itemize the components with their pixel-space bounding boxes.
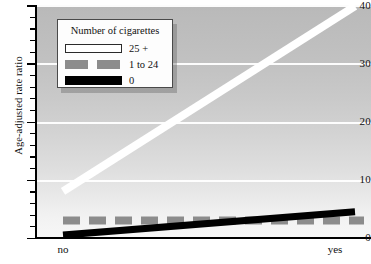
legend-swatch-1to24 (65, 60, 122, 69)
y-tick-40 (27, 5, 36, 7)
y-tick-label-30: 30 (351, 58, 371, 69)
y-minor-tick (30, 191, 36, 192)
legend-swatch-0 (65, 76, 122, 85)
y-minor-tick (30, 203, 36, 204)
plot-area: Number of cigarettes 25 + 1 to 24 0 (36, 5, 371, 238)
legend-label-25plus: 25 + (129, 43, 148, 54)
legend-label-1to24: 1 to 24 (129, 59, 158, 70)
y-minor-tick (30, 156, 36, 157)
y-tick-label-0: 0 (351, 232, 371, 243)
y-minor-tick (30, 168, 36, 169)
y-minor-tick (30, 52, 36, 53)
y-minor-tick (30, 226, 36, 227)
x-tick-label-no: no (43, 243, 83, 255)
legend-swatch-25plus (65, 44, 122, 53)
y-minor-tick (30, 40, 36, 41)
x-tick-label-yes: yes (315, 243, 355, 255)
legend-entry-1to24: 1 to 24 (65, 57, 165, 72)
legend-entry-25plus: 25 + (65, 41, 165, 56)
x-axis-line (35, 237, 371, 239)
legend-entry-0: 0 (65, 73, 165, 88)
y-tick-label-40: 40 (351, 0, 371, 11)
legend-label-0: 0 (129, 75, 134, 86)
y-tick-30 (27, 63, 36, 65)
y-axis-title: Age-adjusted rate ratio (13, 26, 24, 186)
y-tick-10 (27, 180, 36, 182)
y-minor-tick (30, 145, 36, 146)
chart-legend: Number of cigarettes 25 + 1 to 24 0 (57, 19, 173, 88)
y-tick-0 (27, 238, 36, 240)
legend-title: Number of cigarettes (65, 25, 165, 37)
y-minor-tick (30, 133, 36, 134)
y-tick-20 (27, 122, 36, 124)
y-minor-tick (30, 87, 36, 88)
y-minor-tick (30, 110, 36, 111)
y-minor-tick (30, 28, 36, 29)
y-minor-tick (30, 17, 36, 18)
y-tick-label-10: 10 (351, 174, 371, 185)
y-tick-label-20: 20 (351, 116, 371, 127)
y-minor-tick (30, 215, 36, 216)
chart-figure: Number of cigarettes 25 + 1 to 24 0 (0, 0, 371, 264)
y-minor-tick (30, 98, 36, 99)
y-minor-tick (30, 75, 36, 76)
